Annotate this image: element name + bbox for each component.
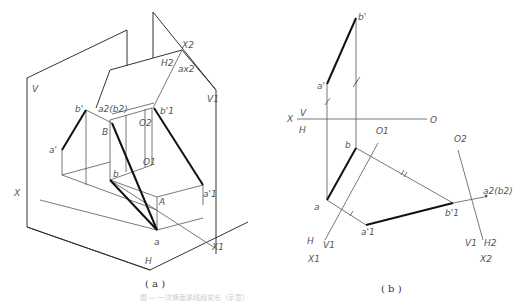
label-a2b2: a2(b2) [483,186,513,196]
tick-mark [325,98,330,105]
segment-a-b-prime [327,18,356,84]
label-H: H [299,125,306,135]
label-V1: V1 [207,94,219,104]
caption-b: ( b ) [381,283,402,294]
segment-a-b-prime [62,110,86,150]
projector [110,180,215,248]
label-b1-prime: b'1 [445,208,459,218]
segment-a1-b1-prime [154,108,203,185]
label-b1-prime: b'1 [160,106,174,116]
projector-b1-a2 [453,197,484,203]
label-O2: O2 [139,118,152,128]
caption-a: ( a ) [145,278,165,289]
label-O1: O1 [143,157,156,167]
x-axis-edge [27,227,150,270]
label-X1: X1 [211,242,224,252]
label-X: X [286,114,294,124]
projector [62,175,157,210]
segment-a1-b1-prime [366,203,453,225]
projector [157,218,203,230]
label-X2: X2 [181,40,194,50]
label-b-prime: b' [75,104,83,114]
label-b-prime: b' [358,12,366,22]
label-a1-prime: a'1 [203,189,217,199]
label-V1-left: V1 [323,240,335,250]
label-H: H [145,256,152,266]
segment-ab [110,180,157,230]
v-plane-outline [27,30,127,227]
panel-b-orthographic: b' a' X V H O O1 O2 b a a'1 b'1 a2(b2) H… [286,12,513,294]
label-ax2: ax2 [178,64,195,74]
label-X1: X1 [307,254,320,264]
label-b: b [345,140,351,150]
label-a1-prime: a'1 [361,227,375,237]
projector-a-a1 [327,200,366,225]
figure-caption: 图 — 一次换面求线段实长（示意） [140,293,249,302]
label-a-prime: a' [49,145,57,155]
label-H2: H2 [161,58,174,68]
label-a: a [154,237,160,247]
label-A: A [158,197,165,207]
label-O1: O1 [376,126,389,136]
label-a: a [314,202,320,212]
label-V1-right: V1 [465,238,477,248]
label-a2b2: a2(b2) [98,104,128,114]
label-O2: O2 [454,134,467,144]
label-b: b [113,169,119,179]
label-X2: X2 [479,254,492,264]
x2-axis [458,150,483,240]
panel-a-3d-view: V V1 X2 H2 ax2 b' a2(b2) B b'1 O2 a' O1 … [13,12,248,289]
label-X: X [13,188,21,198]
projection-diagram: V V1 X2 H2 ax2 b' a2(b2) B b'1 O2 a' O1 … [0,0,517,303]
label-V: V [300,108,307,118]
segment-ab [327,148,356,200]
label-H-left: H [307,236,314,246]
label-H2: H2 [484,238,497,248]
projector [157,185,203,197]
projector [40,200,157,230]
label-B: B [102,127,108,137]
label-a-prime: a' [317,81,325,91]
label-V: V [32,84,39,94]
label-O: O [430,115,437,125]
